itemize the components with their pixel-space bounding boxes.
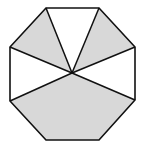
octagon-diagram xyxy=(0,0,142,145)
